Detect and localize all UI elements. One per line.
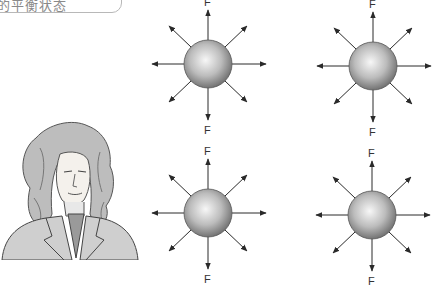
force-label-top: F: [204, 145, 211, 157]
sphere-diagram-top-left: F F: [152, 0, 266, 136]
force-label-bottom: F: [204, 124, 211, 136]
sphere-diagram-bottom-left: F F: [152, 145, 266, 285]
sphere: [184, 189, 232, 237]
sphere-diagram-bottom-right: F F: [316, 147, 430, 287]
force-label-bottom: F: [368, 275, 375, 287]
sphere: [349, 42, 397, 90]
force-label-top: F: [368, 147, 375, 159]
force-label-top: F: [204, 0, 211, 8]
force-label-bottom: F: [204, 273, 211, 285]
sphere: [184, 40, 232, 88]
force-label-top: F: [369, 0, 376, 10]
force-label-bottom: F: [369, 126, 376, 138]
sphere-diagram-top-right: F F: [317, 0, 431, 138]
force-diagrams: F F F F F F: [0, 0, 437, 289]
sphere: [348, 191, 396, 239]
